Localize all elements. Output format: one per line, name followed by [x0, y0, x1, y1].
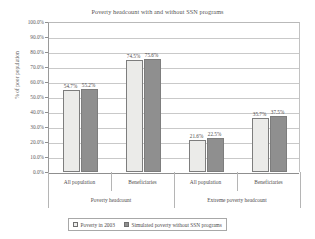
y-axis-tick-label: 40.0% — [6, 109, 44, 115]
category-label: Beneficiaries — [237, 172, 300, 191]
y-axis-tick-label: 30.0% — [6, 124, 44, 130]
bar — [126, 60, 143, 172]
y-axis-tick-label: 20.0% — [6, 139, 44, 145]
category-label: All population — [174, 172, 237, 191]
category-label: All population — [48, 172, 111, 191]
y-axis-tick-label: 90.0% — [6, 34, 44, 40]
legend-item: Simulated poverty without SSN programs — [124, 222, 222, 228]
axis-separator — [300, 172, 301, 208]
bar — [189, 140, 206, 172]
axis-separator — [111, 172, 112, 191]
y-axis-tick-label: 70.0% — [6, 64, 44, 70]
bar — [270, 116, 287, 172]
legend-label: Simulated poverty without SSN programs — [131, 222, 221, 228]
chart-legend: Poverty in 2003Simulated poverty without… — [68, 218, 227, 231]
legend-label: Poverty in 2003 — [81, 222, 115, 228]
legend-swatch-icon — [124, 222, 129, 227]
y-axis-tick-label: 0.0% — [6, 169, 44, 175]
bars-layer — [49, 23, 299, 172]
bar-value-label: 37.5% — [271, 109, 284, 115]
legend-swatch-icon — [73, 222, 78, 227]
bar-value-label: 75.6% — [145, 52, 158, 58]
y-axis-title: % of poor population — [14, 30, 20, 120]
y-axis-tick-label: 60.0% — [6, 79, 44, 85]
legend-item: Poverty in 2003 — [73, 222, 115, 228]
bar-value-label: 54.7% — [64, 83, 77, 89]
bar-value-label: 55.2% — [82, 82, 95, 88]
bar-value-label: 35.7% — [253, 111, 266, 117]
axis-separator — [237, 172, 238, 191]
category-label: Beneficiaries — [111, 172, 174, 191]
chart-container: Poverty headcount with and without SSN p… — [0, 0, 315, 239]
bar — [81, 89, 98, 172]
bar — [252, 118, 269, 172]
group-label: Poverty headcount — [48, 191, 174, 208]
bar — [63, 90, 80, 172]
y-axis-tick-label: 10.0% — [6, 154, 44, 160]
y-axis-tick-label: 50.0% — [6, 94, 44, 100]
chart-title: Poverty headcount with and without SSN p… — [0, 8, 315, 15]
y-axis-tick-label: 100.0% — [6, 19, 44, 25]
y-axis-tick-label: 80.0% — [6, 49, 44, 55]
bar-value-label: 74.5% — [127, 53, 140, 59]
bar — [207, 138, 224, 172]
group-label: Extreme poverty headcount — [174, 191, 300, 208]
plot-area — [48, 22, 300, 172]
bar — [144, 59, 161, 172]
bar-value-label: 21.6% — [190, 133, 203, 139]
bar-value-label: 22.5% — [208, 131, 221, 137]
